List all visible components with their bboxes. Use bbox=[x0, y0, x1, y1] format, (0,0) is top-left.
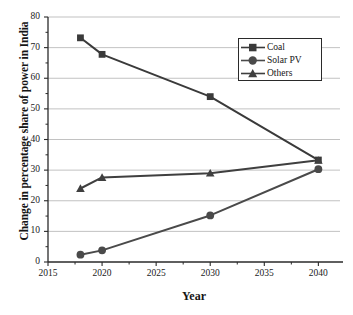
x-tick-label: 2025 bbox=[136, 268, 176, 278]
legend-item-others: Others bbox=[239, 67, 323, 80]
square-marker-icon bbox=[239, 41, 267, 54]
y-tick-label: 30 bbox=[14, 164, 40, 174]
data-point-marker bbox=[98, 246, 106, 254]
legend: Coal Solar PV Others bbox=[238, 38, 322, 81]
y-tick-label: 10 bbox=[14, 225, 40, 235]
series-line-solar-pv bbox=[80, 169, 318, 254]
data-point-marker bbox=[76, 184, 85, 192]
y-tick-label: 20 bbox=[14, 195, 40, 205]
legend-item-solar-pv: Solar PV bbox=[239, 54, 323, 67]
data-point-marker bbox=[314, 165, 322, 173]
circle-marker-icon bbox=[239, 54, 267, 67]
y-tick-label: 50 bbox=[14, 103, 40, 113]
y-tick-label: 70 bbox=[14, 42, 40, 52]
legend-item-coal: Coal bbox=[239, 41, 323, 54]
legend-label-coal: Coal bbox=[267, 41, 285, 54]
legend-label-solar-pv: Solar PV bbox=[267, 54, 302, 67]
y-tick-label: 80 bbox=[14, 11, 40, 21]
data-point-marker bbox=[77, 34, 84, 41]
x-tick-label: 2015 bbox=[28, 268, 68, 278]
y-tick-label: 40 bbox=[14, 134, 40, 144]
y-tick-label: 60 bbox=[14, 72, 40, 82]
legend-label-others: Others bbox=[267, 67, 292, 80]
x-tick-label: 2035 bbox=[244, 268, 284, 278]
data-point-marker bbox=[77, 251, 85, 259]
y-tick-label: 0 bbox=[14, 256, 40, 266]
x-tick-label: 2030 bbox=[190, 268, 230, 278]
data-point-marker bbox=[207, 93, 214, 100]
line-chart: Change in percentage share of power in I… bbox=[0, 0, 353, 315]
data-point-marker bbox=[99, 51, 106, 58]
x-tick-label: 2040 bbox=[298, 268, 338, 278]
triangle-marker-icon bbox=[239, 67, 267, 80]
x-axis-title: Year bbox=[48, 289, 340, 304]
x-tick-label: 2020 bbox=[82, 268, 122, 278]
data-point-marker bbox=[206, 212, 214, 220]
